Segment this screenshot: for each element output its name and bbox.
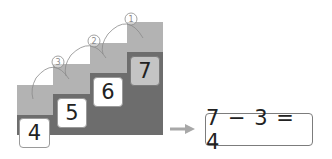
svg-text:1: 1 (128, 15, 133, 24)
svg-text:2: 2 (91, 37, 96, 46)
equation-box: 7 − 3 = 4 (205, 113, 313, 146)
right-arrow-icon (170, 124, 196, 134)
svg-text:3: 3 (55, 58, 60, 67)
